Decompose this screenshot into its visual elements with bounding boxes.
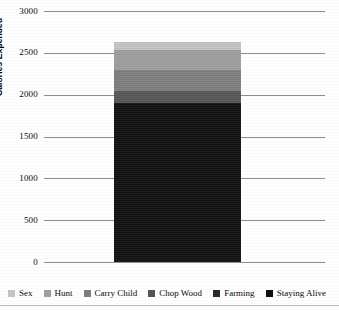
y-axis-tick-label: 1000: [0, 174, 38, 183]
legend-item-chop-wood[interactable]: Chop Wood: [148, 288, 202, 298]
y-axis-tick-label: 3000: [0, 7, 38, 16]
gridline: [44, 262, 325, 263]
y-axis-tick-label: 0: [0, 258, 38, 267]
footer-divider: [0, 305, 339, 306]
y-axis-tick-label: 500: [0, 216, 38, 225]
legend-item-hunt[interactable]: Hunt: [44, 288, 73, 298]
bar-segment-hunt[interactable]: [114, 50, 241, 70]
bar-segment-chop-wood[interactable]: [114, 91, 241, 103]
plot-area: [44, 11, 325, 262]
bar-segment-carry-child[interactable]: [114, 70, 241, 91]
legend-swatch-icon: [148, 290, 155, 297]
legend-swatch-icon: [44, 290, 51, 297]
legend-label: Hunt: [55, 288, 73, 298]
legend-label: Farming: [224, 288, 255, 298]
legend-label: Carry Child: [95, 288, 138, 298]
bar-segment-staying-alive[interactable]: [114, 103, 241, 262]
legend-label: Staying Alive: [277, 288, 326, 298]
bar-segment-sex[interactable]: [114, 42, 241, 50]
y-axis-tick-label: 1500: [0, 132, 38, 141]
chart-legend: SexHuntCarry ChildChop WoodFarmingStayin…: [0, 285, 339, 301]
legend-item-farming[interactable]: Farming: [213, 288, 255, 298]
legend-label: Sex: [19, 288, 33, 298]
y-axis-tick-label: 2500: [0, 48, 38, 57]
legend-item-sex[interactable]: Sex: [8, 288, 33, 298]
legend-item-carry-child[interactable]: Carry Child: [84, 288, 138, 298]
stacked-bar[interactable]: [114, 42, 241, 263]
legend-swatch-icon: [213, 290, 220, 297]
gridline: [44, 11, 325, 12]
legend-item-staying-alive[interactable]: Staying Alive: [266, 288, 326, 298]
legend-swatch-icon: [266, 290, 273, 297]
legend-swatch-icon: [8, 290, 15, 297]
chart-container: Calories Expended 3000250020001500100050…: [0, 0, 339, 310]
y-axis-tick-label: 2000: [0, 90, 38, 99]
legend-label: Chop Wood: [159, 288, 202, 298]
legend-swatch-icon: [84, 290, 91, 297]
